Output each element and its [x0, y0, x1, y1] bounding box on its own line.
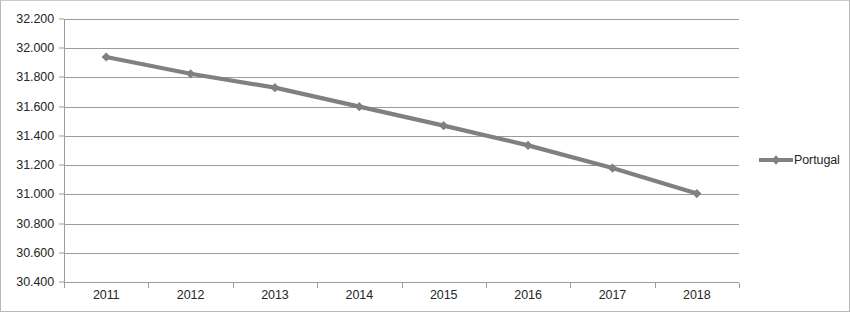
plot-area — [64, 19, 739, 282]
x-axis-tick-mark — [402, 283, 403, 288]
y-axis-tick-label: 31.400 — [0, 130, 54, 143]
data-point-marker — [270, 83, 279, 92]
x-axis-tick-label: 2017 — [572, 289, 652, 302]
y-axis-tick-label: 31.600 — [0, 100, 54, 113]
x-axis-tick-label: 2016 — [488, 289, 568, 302]
y-axis-tick-label: 31.000 — [0, 188, 54, 201]
x-axis-tick-mark — [570, 283, 571, 288]
y-axis-tick-label: 31.200 — [0, 159, 54, 172]
data-point-marker — [439, 121, 448, 130]
data-point-marker — [608, 163, 617, 172]
x-axis-tick-label: 2013 — [235, 289, 315, 302]
data-point-marker — [102, 52, 111, 61]
chart-container: 32.20032.00031.80031.60031.40031.20031.0… — [0, 0, 850, 312]
x-axis-tick-label: 2018 — [657, 289, 737, 302]
data-point-marker — [692, 189, 701, 198]
x-axis-tick-mark — [233, 283, 234, 288]
x-axis-tick-mark — [655, 283, 656, 288]
legend-marker-portugal — [758, 153, 794, 167]
y-axis-tick-label: 30.800 — [0, 217, 54, 230]
x-axis-tick-label: 2014 — [319, 289, 399, 302]
y-axis-tick-label: 31.800 — [0, 71, 54, 84]
data-point-marker — [186, 69, 195, 78]
x-axis-tick-mark — [739, 283, 740, 288]
series-portugal — [64, 19, 739, 282]
data-point-marker — [355, 102, 364, 111]
x-axis-tick-label: 2012 — [151, 289, 231, 302]
x-axis-tick-mark — [317, 283, 318, 288]
series-markers — [102, 52, 702, 198]
x-axis-tick-mark — [486, 283, 487, 288]
x-axis-tick-mark — [64, 283, 65, 288]
series-line — [106, 57, 697, 194]
y-axis-tick-label: 32.000 — [0, 42, 54, 55]
y-axis-tick-label: 32.200 — [0, 13, 54, 26]
data-point-marker — [523, 141, 532, 150]
x-axis-tick-label: 2015 — [404, 289, 484, 302]
x-axis-tick-mark — [148, 283, 149, 288]
x-axis-tick-label: 2011 — [66, 289, 146, 302]
y-axis-tick-label: 30.600 — [0, 247, 54, 260]
legend-label-portugal: Portugal — [794, 154, 840, 167]
chart-legend: Portugal — [758, 153, 840, 167]
y-axis-tick-label: 30.400 — [0, 276, 54, 289]
